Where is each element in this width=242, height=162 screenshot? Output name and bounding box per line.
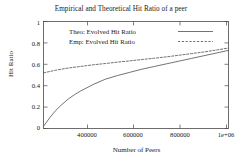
plot-frame bbox=[44, 22, 229, 129]
data-series-group bbox=[44, 48, 229, 126]
series-line-theo bbox=[44, 50, 229, 126]
y-axis-ticks bbox=[44, 22, 229, 129]
legend-keys bbox=[178, 32, 213, 42]
series-line-emp bbox=[44, 48, 229, 73]
plot-area bbox=[0, 0, 242, 162]
x-axis-ticks bbox=[88, 22, 227, 129]
chart-container: Empirical and Theoretical Hit Ratio of a… bbox=[0, 0, 242, 162]
